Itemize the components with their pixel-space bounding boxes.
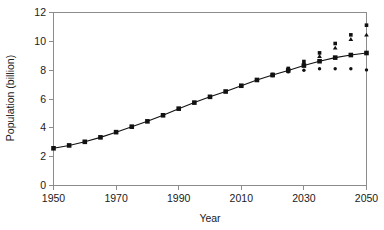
data-point-square xyxy=(333,42,337,46)
data-point-circle xyxy=(349,67,352,70)
data-series-layer xyxy=(51,23,369,150)
y-tick-label: 2 xyxy=(40,150,46,162)
data-point-square xyxy=(129,124,134,129)
y-tick-label: 6 xyxy=(40,93,46,105)
x-tick-label: 2030 xyxy=(292,192,316,204)
y-tick-label: 8 xyxy=(40,64,46,76)
data-point-square xyxy=(317,59,322,64)
x-axis-title: Year xyxy=(199,212,221,224)
series-low-variant xyxy=(271,67,368,77)
data-point-circle xyxy=(333,67,336,70)
data-point-triangle xyxy=(333,46,338,50)
x-tick-label: 2050 xyxy=(355,192,379,204)
data-point-square xyxy=(349,53,354,58)
population-projection-chart: 024681012 195019701990201020302050 Popul… xyxy=(0,0,384,230)
data-point-square xyxy=(365,23,369,27)
data-point-square xyxy=(255,78,260,83)
y-tick-label: 4 xyxy=(40,121,46,133)
data-point-square xyxy=(239,83,244,88)
x-axis-ticks xyxy=(54,186,367,191)
y-axis-ticks xyxy=(49,13,54,186)
data-point-triangle xyxy=(364,33,369,37)
data-point-circle xyxy=(287,70,290,73)
chart-canvas: 024681012 195019701990201020302050 Popul… xyxy=(0,0,384,230)
data-point-circle xyxy=(302,68,305,71)
y-tick-label: 10 xyxy=(34,35,46,47)
data-point-square xyxy=(51,146,56,151)
data-point-square xyxy=(333,55,338,60)
y-tick-label: 0 xyxy=(40,179,46,191)
data-point-circle xyxy=(271,74,274,77)
data-point-circle xyxy=(365,68,368,71)
x-axis-tick-labels: 195019701990201020302050 xyxy=(42,192,379,204)
x-tick-label: 2010 xyxy=(230,192,254,204)
data-point-square xyxy=(98,135,103,140)
series-medium-variant xyxy=(51,51,369,151)
data-point-square xyxy=(223,89,228,94)
y-axis-title: Population (billion) xyxy=(4,55,16,141)
data-point-square xyxy=(176,106,181,111)
data-point-square xyxy=(364,51,369,56)
y-axis-tick-labels: 024681012 xyxy=(34,6,46,191)
x-tick-label: 1970 xyxy=(104,192,128,204)
data-point-square xyxy=(114,130,119,135)
y-tick-label: 12 xyxy=(34,6,46,18)
data-point-square xyxy=(192,100,197,105)
x-tick-label: 1950 xyxy=(42,192,66,204)
data-point-square xyxy=(145,119,150,124)
data-point-triangle xyxy=(348,37,353,41)
data-point-square xyxy=(67,143,72,148)
x-tick-label: 1990 xyxy=(167,192,191,204)
data-point-square xyxy=(208,95,213,100)
data-point-square xyxy=(83,140,88,145)
data-point-square xyxy=(349,33,353,37)
data-point-circle xyxy=(318,67,321,70)
data-point-square xyxy=(161,113,166,118)
